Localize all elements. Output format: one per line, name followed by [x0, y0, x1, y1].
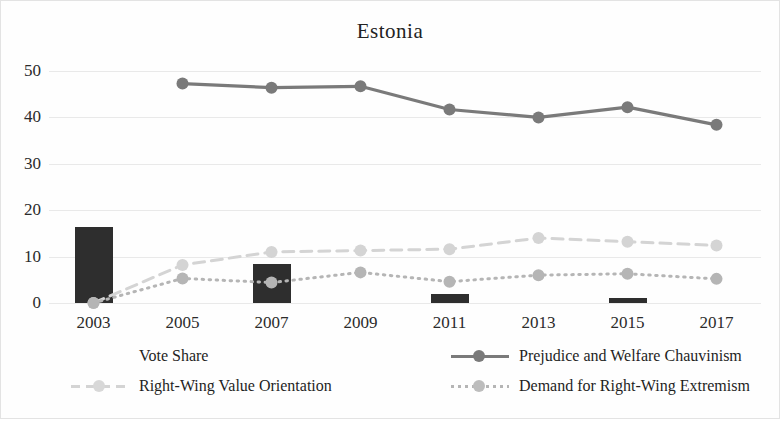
y-axis-tick-label: 10 [5, 247, 41, 267]
data-point-marker [266, 82, 278, 94]
dotted-line-swatch-icon [451, 378, 509, 394]
x-axis-tick-label: 2017 [700, 313, 734, 333]
data-point-marker [711, 239, 723, 251]
data-point-marker [533, 232, 545, 244]
y-axis-tick-label: 20 [5, 200, 41, 220]
legend-item-prejudice-welfare-chauvinism[interactable]: Prejudice and Welfare Chauvinism [451, 347, 751, 365]
data-point-marker [266, 277, 278, 289]
data-point-marker [177, 272, 189, 284]
legend-label: Demand for Right-Wing Extremism [519, 377, 750, 395]
y-axis-tick-label: 30 [5, 154, 41, 174]
y-axis-tick-label: 50 [5, 61, 41, 81]
data-point-marker [444, 276, 456, 288]
x-axis-tick-label: 2009 [344, 313, 378, 333]
x-axis-tick-label: 2007 [255, 313, 289, 333]
data-point-marker [444, 104, 456, 116]
plot-area: 01020304050 2003200520072009201120132015… [49, 71, 761, 303]
legend-label: Vote Share [139, 347, 208, 365]
chart-container: Estonia 01020304050 20032005200720092011… [0, 0, 780, 419]
legend-label: Right-Wing Value Orientation [139, 377, 332, 395]
gridline [49, 303, 761, 304]
data-point-marker [355, 80, 367, 92]
data-point-marker [711, 119, 723, 131]
data-point-marker [711, 273, 723, 285]
data-point-marker [533, 111, 545, 123]
data-point-marker [355, 266, 367, 278]
dashed-line-swatch-icon [71, 378, 129, 394]
data-point-marker [266, 246, 278, 258]
legend-label: Prejudice and Welfare Chauvinism [519, 347, 742, 365]
solid-line-swatch-icon [451, 348, 509, 364]
data-point-marker [622, 236, 634, 248]
x-axis-tick-label: 2013 [522, 313, 556, 333]
legend-item-demand-right-wing-extremism[interactable]: Demand for Right-Wing Extremism [451, 377, 751, 395]
x-axis-tick-label: 2011 [433, 313, 466, 333]
data-point-marker [622, 101, 634, 113]
x-axis-tick-label: 2003 [77, 313, 111, 333]
data-point-marker [177, 78, 189, 90]
line-series-layer [49, 71, 761, 303]
legend-item-vote-share[interactable]: Vote Share [71, 347, 451, 365]
y-axis-tick-label: 40 [5, 107, 41, 127]
chart-title: Estonia [1, 19, 779, 44]
chart-legend: Vote Share Prejudice and Welfare Chauvin… [71, 341, 751, 401]
data-point-marker [533, 269, 545, 281]
y-axis-tick-label: 0 [5, 293, 41, 313]
bar-swatch-icon [71, 348, 129, 364]
data-point-marker [177, 259, 189, 271]
legend-item-right-wing-value-orientation[interactable]: Right-Wing Value Orientation [71, 377, 451, 395]
data-point-marker [622, 268, 634, 280]
data-point-marker [88, 297, 100, 309]
data-point-marker [444, 243, 456, 255]
x-axis-tick-label: 2015 [611, 313, 645, 333]
x-axis-tick-label: 2005 [166, 313, 200, 333]
data-point-marker [355, 245, 367, 257]
